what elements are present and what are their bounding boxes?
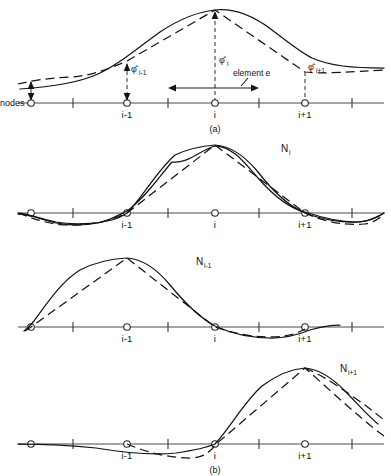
panel-N-i-plus-1-tick-label-left: i-1 bbox=[121, 450, 132, 461]
panel-a-tick-label-right: i+1 bbox=[298, 109, 312, 120]
svg-text:φ̂: φ̂ bbox=[219, 55, 227, 65]
svg-text:i: i bbox=[227, 60, 229, 67]
panel-N-i: N i i-1 i i+1 bbox=[18, 143, 384, 230]
nodes-label: nodes bbox=[0, 98, 25, 108]
panel-a-caption: (a) bbox=[210, 124, 221, 134]
panel-N-i-minus-1-dashed-curve bbox=[25, 258, 305, 337]
panel-N-i-label: N i bbox=[281, 143, 291, 156]
panel-N-i-plus-1-tail-curve bbox=[305, 368, 384, 420]
panel-N-i-minus-1-label-base: N bbox=[196, 256, 203, 267]
panel-N-i-plus-1-label-sub: i+1 bbox=[348, 369, 357, 376]
panel-a-tick-label-left: i-1 bbox=[121, 109, 132, 120]
figure-svg: nodes element e φ̂ i-1 φ̂ i φ̂ i+1 i-1 i… bbox=[0, 0, 391, 476]
panel-a: nodes element e φ̂ i-1 φ̂ i φ̂ i+1 i-1 i… bbox=[0, 10, 384, 134]
panel-a-dashed-curve bbox=[18, 10, 384, 84]
node-marker bbox=[212, 100, 219, 107]
figure-caption-b: (b) bbox=[210, 465, 221, 475]
amplitude-label-phi-i: φ̂ i bbox=[219, 55, 229, 67]
element-pointer bbox=[241, 78, 248, 86]
panel-N-i-label-base: N bbox=[281, 143, 288, 154]
panel-N-i-tick-label-right: i+1 bbox=[298, 219, 312, 230]
arrowhead-right bbox=[251, 84, 259, 91]
panel-a-tick-label-center: i bbox=[214, 109, 216, 120]
node-marker bbox=[212, 210, 219, 217]
arrowhead-up bbox=[28, 81, 35, 89]
arrowhead-up bbox=[124, 63, 131, 71]
panel-N-i-plus-1-tick-label-right: i+1 bbox=[298, 450, 312, 461]
element-label: element e bbox=[233, 68, 271, 78]
panel-N-i-label-sub: i bbox=[289, 149, 291, 156]
arrowhead-left bbox=[168, 84, 176, 91]
svg-text:i-1: i-1 bbox=[139, 69, 147, 76]
panel-N-i-minus-1-tick-label-left: i-1 bbox=[121, 333, 132, 344]
panel-N-i-minus-1: N i-1 i-1 i i+1 bbox=[18, 256, 384, 344]
panel-N-i-minus-1-tick-label-center: i bbox=[214, 333, 216, 344]
panel-N-i-tick-label-left: i-1 bbox=[121, 219, 132, 230]
panel-N-i-minus-1-tick-label-right: i+1 bbox=[298, 333, 312, 344]
panel-N-i-plus-1-smooth-curve bbox=[18, 368, 378, 454]
panel-N-i-minus-1-label: N i-1 bbox=[196, 256, 212, 269]
panel-N-i-plus-1: N i+1 i-1 i i+1 (b) bbox=[18, 363, 384, 475]
amplitude-label-phi-i-minus-1: φ̂ i-1 bbox=[131, 64, 147, 76]
svg-text:i+1: i+1 bbox=[316, 67, 325, 74]
panel-N-i-tick-label-center: i bbox=[214, 219, 216, 230]
panel-N-i-plus-1-label-base: N bbox=[340, 363, 347, 374]
node-marker bbox=[124, 324, 131, 331]
panel-N-i-minus-1-label-sub: i-1 bbox=[204, 262, 212, 269]
node-marker bbox=[302, 441, 309, 448]
panel-N-i-plus-1-tick-label-center: i bbox=[214, 450, 216, 461]
arrowhead-down bbox=[124, 93, 131, 101]
node-marker bbox=[302, 100, 309, 107]
arrowhead-down bbox=[28, 93, 35, 101]
svg-text:φ̂: φ̂ bbox=[131, 64, 139, 74]
figure-container: nodes element e φ̂ i-1 φ̂ i φ̂ i+1 i-1 i… bbox=[0, 0, 391, 476]
svg-text:φ̂: φ̂ bbox=[308, 62, 316, 72]
panel-N-i-plus-1-label: N i+1 bbox=[340, 363, 357, 376]
